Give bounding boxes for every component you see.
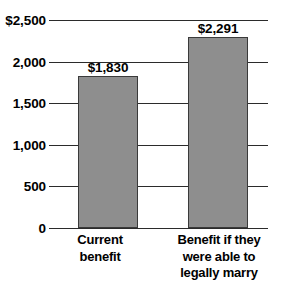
tick-stub-1000 bbox=[49, 145, 58, 146]
category-label-current-benefit: Current benefit bbox=[48, 232, 152, 265]
category-label-line: legally marry bbox=[158, 265, 280, 282]
category-label-line: Current bbox=[48, 232, 152, 249]
ytick-label-2500: $2,500 bbox=[5, 13, 46, 28]
ytick-label-0: 0 bbox=[39, 221, 46, 236]
ytick-label-1500: 1,500 bbox=[13, 96, 46, 111]
bar-chart: $2,500 2,000 1,500 1,000 500 0 bbox=[0, 0, 285, 295]
tick-stub-0 bbox=[49, 228, 58, 229]
plot-area: $2,500 2,000 1,500 1,000 500 0 bbox=[58, 20, 268, 228]
tick-stub-1500 bbox=[49, 103, 58, 104]
bar-marry-benefit[interactable]: $2,291 bbox=[188, 37, 248, 228]
baseline-axis bbox=[58, 228, 268, 229]
ytick-label-1000: 1,000 bbox=[13, 137, 46, 152]
ytick-label-2000: 2,000 bbox=[13, 54, 46, 69]
tick-stub-2500 bbox=[49, 20, 58, 21]
ytick-label-500: 500 bbox=[24, 179, 46, 194]
bar-current-benefit[interactable]: $1,830 bbox=[78, 76, 138, 228]
category-label-line: Benefit if they bbox=[158, 232, 280, 249]
category-label-marry-benefit: Benefit if they were able to legally mar… bbox=[158, 232, 280, 282]
category-label-line: were able to bbox=[158, 249, 280, 266]
tick-stub-2000 bbox=[49, 62, 58, 63]
category-label-line: benefit bbox=[48, 249, 152, 266]
tick-stub-500 bbox=[49, 186, 58, 187]
bar-value-marry-benefit: $2,291 bbox=[198, 21, 239, 36]
bar-value-current-benefit: $1,830 bbox=[88, 60, 129, 75]
